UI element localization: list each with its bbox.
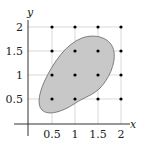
x-tick: 1.5 [89,128,107,141]
y-axis-label: y [26,6,34,19]
x-tick: 0.5 [43,128,61,141]
y-tick: 2 [16,21,23,34]
x-tick: 2 [118,128,125,141]
y-tick: 1 [16,69,23,82]
y-tick: 1.5 [6,45,24,58]
x-axis-label: x [130,118,137,131]
x-tick: 1 [72,128,79,141]
shaded-region [39,36,114,113]
y-tick: 0.5 [6,93,24,106]
chart: y x 2 1.5 1 0.5 0.5 1 1.5 2 [0,0,145,143]
